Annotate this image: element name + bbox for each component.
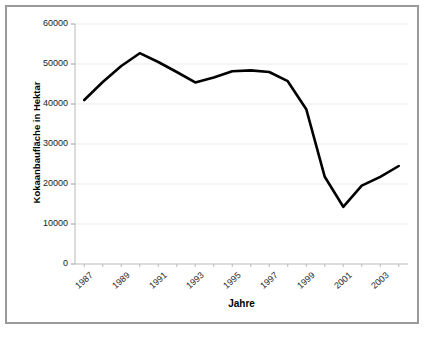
y-tick-label: 50000 [43,58,68,68]
y-axis-title: Kokaanbaufläche in Hektar [31,73,42,213]
y-tick-label: 20000 [43,178,68,188]
y-tick-label: 60000 [43,18,68,28]
gridlines [75,24,408,224]
y-axis-tick-marks [71,24,75,264]
y-tick-label: 10000 [43,218,68,228]
y-tick-label: 30000 [43,138,68,148]
y-tick-label: 0 [63,258,68,268]
y-tick-label: 40000 [43,98,68,108]
